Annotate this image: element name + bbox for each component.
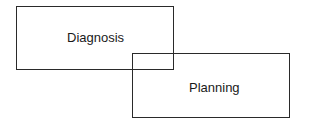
planning-label: Planning (189, 80, 240, 95)
diagnosis-label: Diagnosis (67, 30, 124, 45)
